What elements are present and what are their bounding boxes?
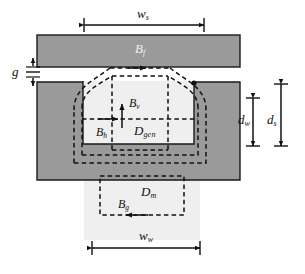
label-flux-top-yoke: Bf [135,42,145,57]
label-inner-depth: dw [238,113,250,128]
flux-top-yoke-path [110,68,170,76]
label-machine-region: Dm [141,185,156,200]
label-top-width: ws [137,7,149,22]
label-gap: g [12,65,19,78]
label-generator-region: Dgen [134,124,156,139]
label-outer-depth: ds [267,113,277,128]
label-flux-vertical: Bv [129,97,140,111]
label-flux-bottom: Bg [118,198,129,212]
label-flux-horizontal: Bh [96,126,107,140]
label-bottom-width: ww [139,229,153,244]
figure-root: ws ww g dw ds Bf Bv Bh Bg Dgen Dm [0,0,305,274]
